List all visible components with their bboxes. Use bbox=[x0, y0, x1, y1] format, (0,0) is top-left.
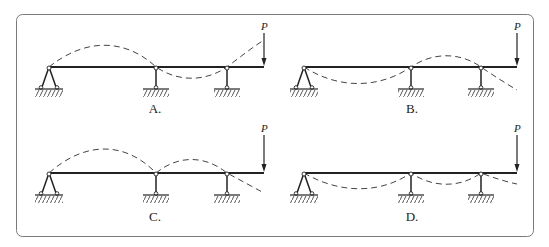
load-arrow-icon bbox=[262, 135, 267, 172]
load-label: P bbox=[260, 122, 268, 134]
hinge-icon bbox=[479, 172, 483, 176]
hinge-icon bbox=[302, 66, 306, 70]
figure-frame bbox=[17, 15, 534, 237]
load-arrow-icon bbox=[262, 33, 267, 66]
load-label: P bbox=[513, 122, 521, 134]
hinge-icon bbox=[225, 66, 229, 70]
load-label: P bbox=[260, 20, 268, 32]
panel-c: PC. bbox=[35, 122, 268, 224]
load-arrow-icon bbox=[515, 135, 520, 172]
panel-b: PB. bbox=[290, 20, 521, 116]
roller-support-icon bbox=[143, 67, 169, 97]
panel-label: D. bbox=[406, 209, 419, 224]
panel-label: B. bbox=[406, 101, 418, 116]
load-label: P bbox=[513, 20, 521, 32]
hinge-icon bbox=[47, 172, 51, 176]
hinge-icon bbox=[479, 66, 483, 70]
roller-support-icon bbox=[468, 173, 494, 203]
panel-label: C. bbox=[149, 209, 161, 224]
hinge-icon bbox=[225, 172, 229, 176]
roller-support-icon bbox=[468, 67, 494, 97]
roller-support-icon bbox=[398, 173, 424, 203]
pin-support-icon bbox=[35, 173, 63, 203]
hinge-icon bbox=[47, 66, 51, 70]
pin-support-icon bbox=[290, 173, 318, 203]
hinge-icon bbox=[154, 66, 158, 70]
roller-support-icon bbox=[214, 67, 240, 97]
pin-support-icon bbox=[290, 67, 318, 97]
hinge-icon bbox=[409, 172, 413, 176]
panel-d: PD. bbox=[290, 122, 521, 224]
roller-support-icon bbox=[214, 173, 240, 203]
pin-support-icon bbox=[35, 67, 63, 97]
roller-support-icon bbox=[143, 173, 169, 203]
panel-a: PA. bbox=[35, 20, 268, 116]
beam-deflection-diagram: PA.PB.PC.PD. bbox=[0, 0, 549, 247]
hinge-icon bbox=[409, 66, 413, 70]
panel-label: A. bbox=[149, 101, 162, 116]
load-arrow-icon bbox=[515, 33, 520, 66]
roller-support-icon bbox=[398, 67, 424, 97]
hinge-icon bbox=[154, 172, 158, 176]
hinge-icon bbox=[302, 172, 306, 176]
